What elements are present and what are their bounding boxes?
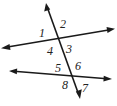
arrowhead-icon bbox=[103, 76, 112, 82]
angle-label-1: 1 bbox=[39, 26, 45, 40]
angle-label-4: 4 bbox=[47, 44, 53, 58]
transversal-diagram: 1 2 3 4 5 6 7 8 bbox=[0, 0, 117, 106]
angle-label-5: 5 bbox=[55, 61, 61, 75]
arrowhead-icon bbox=[1, 44, 11, 50]
arrowhead-icon bbox=[9, 69, 17, 75]
angle-label-7: 7 bbox=[82, 81, 89, 95]
angle-label-2: 2 bbox=[60, 17, 66, 31]
angle-label-3: 3 bbox=[65, 42, 72, 56]
arrowhead-icon bbox=[107, 27, 116, 33]
angle-label-6: 6 bbox=[75, 59, 81, 73]
upper-parallel-line bbox=[1, 27, 115, 50]
arrowhead-icon bbox=[44, 3, 50, 12]
angle-label-8: 8 bbox=[62, 78, 68, 92]
